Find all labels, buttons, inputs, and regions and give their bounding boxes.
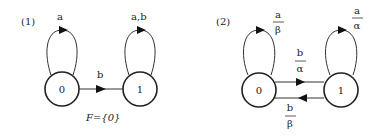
state-0: 0 — [45, 72, 79, 106]
input-symbol: b — [287, 102, 293, 113]
input-symbol: a — [275, 9, 281, 20]
transition-label-ab: a,b — [131, 11, 147, 22]
arrowhead-icon — [298, 94, 307, 102]
output-symbol: β — [287, 118, 293, 129]
state-label: 0 — [59, 84, 65, 95]
transition-label-fraction: a α — [352, 5, 363, 31]
self-loop-1: a α — [325, 5, 363, 75]
edge-1-to-0: b β — [274, 94, 324, 129]
loop-path — [325, 30, 356, 75]
input-symbol: b — [297, 47, 303, 58]
arrowhead-icon — [137, 26, 146, 34]
arrowhead-icon — [296, 78, 305, 86]
diagram-1: (1) a a,b b 0 1 F={0} — [21, 11, 157, 123]
transition-label-fraction: b α — [295, 47, 306, 74]
automata-figure: (1) a a,b b 0 1 F={0} — [0, 0, 379, 137]
state-label: 0 — [256, 85, 262, 96]
output-symbol: β — [275, 24, 281, 35]
diagram-2: (2) a β a α b — [216, 5, 363, 129]
arrowhead-icon — [338, 26, 347, 34]
panel-label-1: (1) — [21, 16, 35, 27]
self-loop-0: a — [47, 11, 77, 75]
state-label: 1 — [137, 84, 143, 95]
self-loop-1: a,b — [125, 11, 155, 75]
arrowhead-icon — [256, 26, 265, 34]
loop-path — [125, 30, 155, 75]
transition-label-fraction: b β — [285, 102, 296, 129]
transition-label-fraction: a β — [273, 9, 284, 35]
output-symbol: α — [297, 63, 304, 74]
state-1: 1 — [123, 72, 157, 106]
arrowhead-icon — [59, 26, 68, 34]
loop-path — [47, 30, 77, 75]
state-0: 0 — [242, 73, 276, 107]
self-loop-0: a β — [243, 9, 284, 75]
final-set-label: F={0} — [85, 112, 120, 123]
transition-label-a: a — [57, 11, 63, 22]
arrowhead-icon — [96, 85, 106, 93]
output-symbol: α — [354, 20, 361, 31]
state-label: 1 — [338, 85, 344, 96]
edge-0-to-1: b — [79, 69, 123, 93]
state-1: 1 — [324, 73, 358, 107]
input-symbol: a — [354, 5, 360, 16]
panel-label-2: (2) — [216, 16, 230, 27]
edge-0-to-1: b α — [275, 47, 324, 86]
transition-label-b: b — [97, 69, 103, 80]
loop-path — [243, 30, 274, 75]
